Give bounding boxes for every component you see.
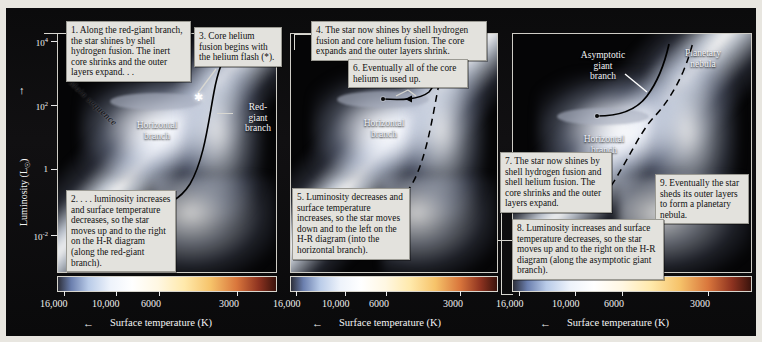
- callout-4-leader-v: [294, 34, 295, 50]
- planetary-nebula-label: Planetarynebula: [665, 48, 741, 69]
- horizontal-branch-ellipse: [110, 93, 202, 110]
- horizontal-branch-star-position-2: [381, 97, 385, 101]
- x-tick-label-16000-3: 16,000: [496, 298, 524, 309]
- x-tick-label-3000-1: 3000: [219, 298, 239, 309]
- callout-9[interactable]: 9. Eventually the star sheds its outer l…: [655, 174, 749, 224]
- x-tick-label-10000-1: 10,000: [92, 298, 120, 309]
- callout-4[interactable]: 4. The star now shines by shell hydrogen…: [311, 21, 487, 61]
- stellar-evolution-figure: Luminosity (L☉) ↑ 104 102 1 10-2: [0, 0, 762, 342]
- x-axis-label-3: Surface temperature (K): [567, 317, 669, 328]
- panel-2: Horizontalbranch 16,000 10,000 6000 3000…: [290, 8, 502, 336]
- x-tick-mark-16000-3: [519, 291, 520, 296]
- y-tick-label-1e4: 104: [20, 36, 48, 48]
- temperature-color-bar-1: [57, 276, 277, 292]
- callout-4-leader-h: [294, 34, 312, 35]
- callout-1-leader-h: [44, 33, 68, 34]
- temperature-color-bar-2: [290, 276, 498, 292]
- red-giant-branch-label: Red-giantbranch: [236, 102, 280, 134]
- callout-6[interactable]: 6. Eventually all of the core helium is …: [348, 59, 468, 88]
- horizontal-branch-label-2: Horizontalbranch: [341, 118, 427, 140]
- x-tick-mark-6000-3: [622, 291, 623, 296]
- x-tick-mark-16000-1: [64, 291, 65, 296]
- x-tick-mark-3000-2: [460, 291, 461, 296]
- asymptotic-giant-branch-label: Asymptoticgiantbranch: [565, 50, 641, 82]
- x-tick-mark-3000-1: [237, 291, 238, 296]
- x-tick-label-16000-2: 16,000: [273, 298, 301, 309]
- y-tick-label-1e-2: 10-2: [14, 230, 48, 242]
- x-tick-mark-6000-1: [159, 291, 160, 296]
- horizontal-branch-label: Horizontalbranch: [114, 120, 200, 142]
- x-tick-mark-6000-2: [386, 291, 387, 296]
- horizontal-branch-star-position-3: [595, 114, 599, 118]
- x-tick-label-6000-1: 6000: [141, 298, 161, 309]
- x-tick-label-10000-2: 10,000: [322, 298, 350, 309]
- x-axis-arrow-1: ←: [83, 319, 94, 328]
- x-tick-mark-10000-3: [575, 291, 576, 296]
- x-axis-label-1: Surface temperature (K): [110, 317, 212, 328]
- x-tick-label-10000-3: 10,000: [552, 298, 580, 309]
- helium-flash-marker: ✱: [194, 94, 203, 100]
- callout-5[interactable]: 5. Luminosity decreases and surface temp…: [292, 188, 410, 260]
- x-axis-arrow-3: ←: [540, 319, 551, 328]
- y-axis-arrow: ↑: [19, 86, 25, 94]
- y-tick-label-1e2: 102: [20, 100, 48, 112]
- callout-8[interactable]: 8. Luminosity increases and surface temp…: [512, 219, 664, 280]
- x-tick-label-16000-1: 16,000: [40, 298, 68, 309]
- callout-7[interactable]: 7. The star now shines by shell hydrogen…: [500, 152, 612, 213]
- callout-1[interactable]: 1. Along the red-giant branch, the star …: [66, 21, 191, 82]
- x-tick-label-6000-3: 6000: [604, 298, 624, 309]
- x-axis-arrow-2: ←: [312, 319, 323, 328]
- y-tick-label-1: 1: [20, 164, 48, 174]
- x-tick-mark-3000-3: [708, 291, 709, 296]
- x-tick-label-3000-3: 3000: [690, 298, 710, 309]
- x-tick-mark-10000-2: [345, 291, 346, 296]
- callout-3[interactable]: 3. Core helium fusion begins with the he…: [194, 27, 282, 67]
- x-axis-label-2: Surface temperature (K): [339, 317, 441, 328]
- x-tick-label-6000-2: 6000: [369, 298, 389, 309]
- red-giant-branch-leader: [217, 113, 233, 114]
- x-tick-label-3000-2: 3000: [443, 298, 463, 309]
- callout-7-leader-h: [501, 294, 513, 295]
- x-tick-mark-16000-2: [296, 291, 297, 296]
- horizontal-branch-ellipse-3: [557, 108, 649, 125]
- x-tick-mark-10000-1: [116, 291, 117, 296]
- callout-2[interactable]: 2. . . . luminosity increases and surfac…: [66, 190, 176, 272]
